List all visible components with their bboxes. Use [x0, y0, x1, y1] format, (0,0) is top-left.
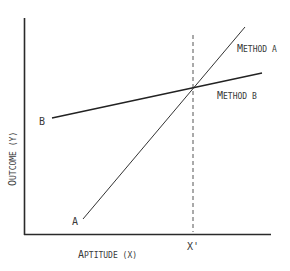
b-start-label: B	[39, 116, 45, 127]
method-a-line	[83, 27, 245, 219]
x-prime-label: X'	[187, 241, 199, 252]
x-axis-title: APTITUDE (X)	[78, 249, 137, 260]
method-b-label: METHOD B	[217, 90, 257, 101]
method-a-label: METHOD A	[237, 43, 277, 54]
a-start-label: A	[72, 216, 78, 227]
aptitude-treatment-interaction-diagram: METHOD A METHOD B B A X' APTITUDE (X) OU…	[0, 0, 290, 271]
y-axis-title: OUTCOME (Y)	[7, 132, 18, 186]
